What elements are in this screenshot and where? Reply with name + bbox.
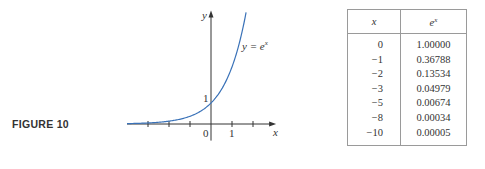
y-axis-arrow-icon <box>209 11 214 18</box>
cell-ex: 0.04979 <box>401 82 467 97</box>
x-axis-label: x <box>272 126 278 138</box>
cell-x: −1 <box>348 53 401 68</box>
table-row: 01.00000 <box>348 34 467 53</box>
curve-label: y = ex <box>241 39 269 52</box>
header-x: x <box>348 10 401 34</box>
axes <box>127 11 276 141</box>
table-row: −50.00674 <box>348 96 467 111</box>
table-row: −20.13534 <box>348 67 467 82</box>
cell-x: −3 <box>348 82 401 97</box>
y-tick-label: 1 <box>203 92 209 104</box>
table-row: −30.04979 <box>348 82 467 97</box>
cell-ex: 1.00000 <box>401 34 467 53</box>
table-body: 01.00000−10.36788−20.13534−30.04979−50.0… <box>348 34 467 146</box>
cell-ex: 0.13534 <box>401 67 467 82</box>
cell-ex: 0.00674 <box>401 96 467 111</box>
x-tick-label: 1 <box>229 127 235 139</box>
header-ex: ex <box>401 10 467 34</box>
cell-x: −5 <box>348 96 401 111</box>
tick-labels: 011 <box>203 92 235 139</box>
value-table: x ex 01.00000−10.36788−20.13534−30.04979… <box>347 9 467 146</box>
exp-curve <box>127 12 246 123</box>
cell-x: 0 <box>348 34 401 53</box>
x-tick-label: 0 <box>203 127 209 139</box>
cell-ex: 0.00005 <box>401 126 467 146</box>
header-ex-exp: x <box>434 16 437 24</box>
curve-label-lhs: y = e <box>241 40 265 52</box>
table-row: −100.00005 <box>348 126 467 146</box>
y-axis-label: y <box>201 9 207 21</box>
curve-label-exp: x <box>264 39 269 47</box>
table-row: −80.00034 <box>348 111 467 126</box>
table-header-row: x ex <box>348 10 467 34</box>
cell-x: −2 <box>348 67 401 82</box>
exponential-graph: y x 011 y = ex <box>0 0 300 169</box>
cell-ex: 0.36788 <box>401 53 467 68</box>
header-x-label: x <box>372 16 377 27</box>
table-row: −10.36788 <box>348 53 467 68</box>
cell-x: −10 <box>348 126 401 146</box>
cell-ex: 0.00034 <box>401 111 467 126</box>
cell-x: −8 <box>348 111 401 126</box>
